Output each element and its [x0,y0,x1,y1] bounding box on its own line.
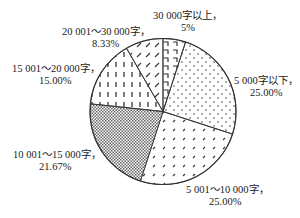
slice-label-percent: 25.00% [250,87,282,99]
slice-label-percent: 15.00% [39,75,71,87]
slice-label-category: 5 000字以下， [234,75,298,87]
slice-label-category: 15 001～20 000字， [12,63,100,75]
slice-label-category: 30 000字以上， [153,10,222,22]
slice-label-percent: 25.00% [209,196,241,208]
slice-label-percent: 5% [181,22,195,34]
slice-label-percent: 21.67% [39,161,71,173]
slice-label-category: 10 001～15 000字， [13,149,101,161]
slice-label-category: 5 001～10 000字， [186,184,269,196]
slice-label-category: 20 001～30 000字， [62,26,150,38]
pie-slices [90,38,236,184]
slice-label-percent: 8.33% [92,38,119,50]
